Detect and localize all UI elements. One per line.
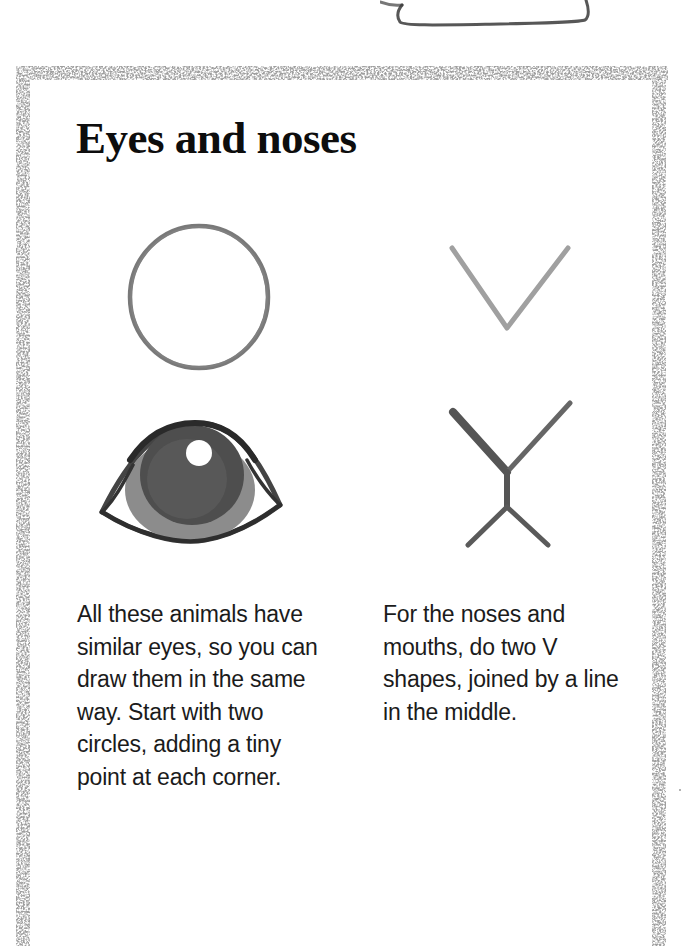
- caption-line: For the noses and: [383, 598, 653, 631]
- previous-illustration-fragment: [380, 0, 620, 30]
- caption-line: point at each corner.: [77, 761, 352, 794]
- caption-line: similar eyes, so you can: [77, 631, 352, 664]
- nose-step-v-illustration: [440, 240, 580, 344]
- page-title: Eyes and noses: [76, 116, 357, 161]
- caption-line: way. Start with two: [77, 696, 352, 729]
- eye-step-finished-illustration: [95, 405, 290, 554]
- eyes-caption: All these animals have similar eyes, so …: [77, 598, 352, 793]
- caption-line: shapes, joined by a line: [383, 663, 653, 696]
- nose-step-joined-v-illustration: [440, 395, 580, 559]
- caption-line: mouths, do two V: [383, 631, 653, 664]
- eye-step-circle-illustration: [125, 220, 275, 379]
- caption-line: draw them in the same: [77, 663, 352, 696]
- noses-caption: For the noses and mouths, do two V shape…: [383, 598, 653, 728]
- scan-speck: [679, 789, 681, 791]
- caption-line: All these animals have: [77, 598, 352, 631]
- caption-line: circles, adding a tiny: [77, 728, 352, 761]
- caption-line: in the middle.: [383, 696, 653, 729]
